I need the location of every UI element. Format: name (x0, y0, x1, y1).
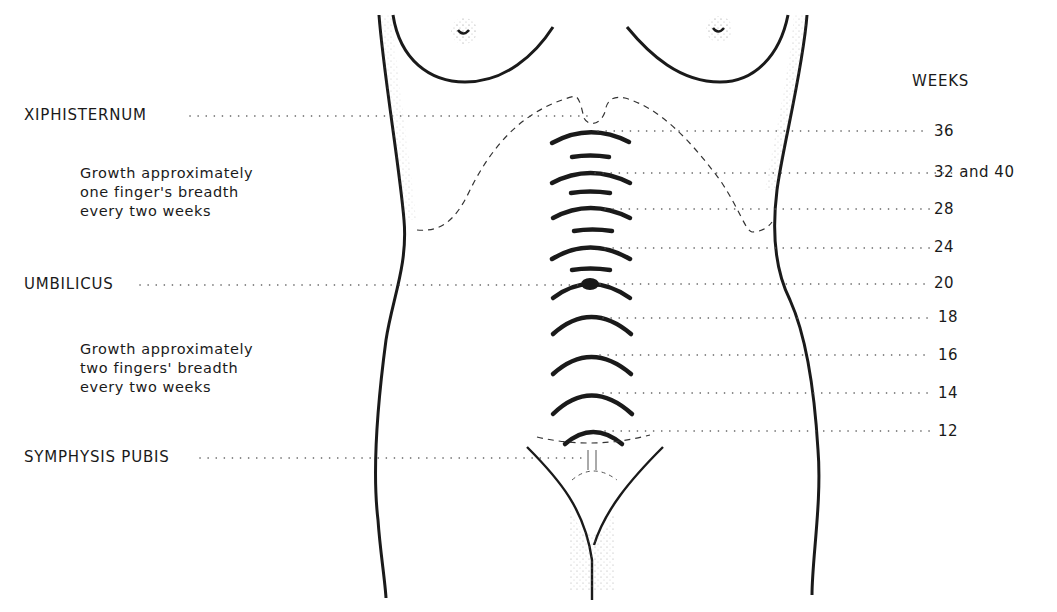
landmark-umbilicus: UMBILICUS (24, 277, 114, 292)
landmark-symphysis-pubis: SYMPHYSIS PUBIS (24, 450, 170, 465)
week-label: 24 (934, 240, 954, 255)
week-label: 28 (934, 202, 954, 217)
week-label: 16 (938, 348, 958, 363)
note-upper-growth: Growth approximately one finger's breadt… (80, 164, 253, 221)
week-label: 12 (938, 424, 958, 439)
week-label: 36 (934, 124, 954, 139)
note-lower-growth: Growth approximately two fingers' breadt… (80, 340, 253, 397)
landmark-xiphisternum: XIPHISTERNUM (24, 108, 147, 123)
weeks-heading: WEEKS (912, 74, 969, 89)
week-label: 18 (938, 310, 958, 325)
fundal-height-illustration (0, 0, 1057, 612)
week-label: 32 and 40 (934, 165, 1014, 180)
week-label: 20 (934, 276, 954, 291)
week-label: 14 (938, 386, 958, 401)
umbilicus-mark (581, 278, 599, 290)
torso-right-outline (775, 15, 819, 595)
rib-cage-outline (417, 96, 772, 232)
